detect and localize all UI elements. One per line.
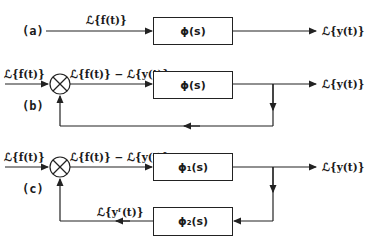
transfer-function-block-b: ϕ(s)	[153, 71, 233, 99]
transfer-function-block-a: ϕ(s)	[153, 17, 233, 45]
output-signal-label-c: ℒ{y(t)}	[322, 162, 364, 173]
part-label-c: (c)	[22, 183, 44, 195]
summing-junction-b	[50, 74, 70, 94]
output-signal-label-a: ℒ{y(t)}	[322, 26, 364, 37]
block-label-b: ϕ(s)	[180, 79, 205, 92]
summing-junction-c	[50, 157, 70, 177]
part-label-b: (b)	[22, 100, 44, 112]
part-label-a: (a)	[22, 25, 44, 37]
feedback-block-label-c: ϕ₂(s)	[178, 215, 208, 228]
forward-block-c: ϕ₁(s)	[153, 153, 233, 181]
forward-block-label-c: ϕ₁(s)	[178, 161, 208, 174]
input-signal-label-c: ℒ{f(t)}	[4, 152, 45, 163]
feedback-signal-label-c: ℒ{yᶠ(t)}	[97, 207, 143, 218]
output-signal-label-b: ℒ{y(t)}	[322, 79, 364, 90]
input-signal-label-a: ℒ{f(t)}	[86, 15, 127, 26]
feedback-block-c: ϕ₂(s)	[153, 207, 233, 236]
input-signal-label-b: ℒ{f(t)}	[4, 69, 45, 80]
block-label-a: ϕ(s)	[180, 25, 205, 38]
